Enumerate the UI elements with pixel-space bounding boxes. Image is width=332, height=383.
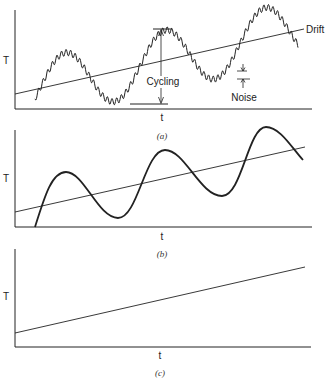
drift-label: Drift [306,24,325,35]
drift-line-b [15,147,305,212]
caption-b: (b) [157,249,168,259]
panel-b: T t (b) [3,127,312,259]
x-axis-label-b: t [161,231,164,242]
figure-canvas: Cycling Noise Drift T t (a) T t (b) T t … [0,0,332,383]
y-axis-label-c: T [3,291,9,302]
cycling-label: Cycling [147,76,180,87]
y-axis-label-b: T [3,173,9,184]
cycling-curve [35,127,303,227]
caption-a: (a) [157,131,168,141]
caption-c: (c) [155,368,165,378]
panel-a: Cycling Noise Drift T t (a) [3,5,325,142]
y-axis-label-a: T [3,55,9,66]
panel-c: T t (c) [3,249,311,378]
noisy-cycling-curve [35,5,298,105]
noise-label: Noise [231,92,257,103]
drift-line-c [15,267,305,333]
x-axis-label-c: t [159,350,162,361]
x-axis-label-a: t [161,112,164,123]
